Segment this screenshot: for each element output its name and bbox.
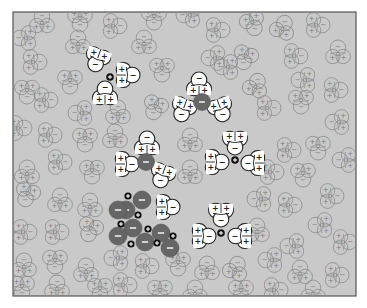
svg-text:+: +: [347, 150, 353, 158]
svg-text:+: +: [273, 27, 279, 35]
svg-text:+: +: [33, 23, 39, 31]
svg-text:+: +: [101, 52, 108, 61]
svg-text:+: +: [328, 277, 334, 285]
svg-text:−: −: [312, 221, 318, 229]
svg-text:−: −: [297, 263, 303, 271]
svg-text:−: −: [52, 263, 58, 271]
cation-sodium: [144, 225, 151, 232]
svg-text:+: +: [309, 138, 315, 146]
svg-text:−: −: [54, 278, 60, 286]
svg-text:+: +: [138, 145, 145, 154]
svg-text:−: −: [252, 25, 258, 33]
svg-text:+: +: [303, 274, 309, 282]
svg-text:+: +: [31, 187, 37, 195]
svg-text:+: +: [37, 90, 43, 98]
svg-text:+: +: [91, 280, 97, 288]
svg-text:+: +: [291, 274, 297, 282]
svg-text:+: +: [190, 86, 197, 95]
svg-text:+: +: [336, 232, 342, 240]
svg-text:−: −: [339, 271, 345, 279]
svg-text:+: +: [260, 232, 266, 240]
svg-text:−: −: [22, 196, 28, 204]
svg-text:+: +: [256, 153, 263, 162]
svg-text:+: +: [138, 256, 144, 264]
svg-text:+: +: [166, 168, 173, 177]
svg-text:+: +: [138, 268, 144, 276]
svg-text:+: +: [116, 275, 122, 283]
svg-text:+: +: [11, 118, 17, 126]
svg-text:+: +: [341, 54, 347, 62]
svg-text:+: +: [119, 260, 125, 268]
svg-text:+: +: [26, 64, 32, 72]
svg-text:+: +: [95, 162, 101, 170]
svg-text:+: +: [336, 244, 342, 252]
cation-sodium: [127, 240, 134, 247]
svg-text:+: +: [156, 164, 163, 173]
svg-text:−: −: [92, 60, 99, 69]
ionic-dissolution-diagram: −++−++−++−++−++−++−++−++−++−++−++−++−++−…: [0, 0, 367, 308]
svg-text:−: −: [97, 291, 103, 299]
svg-text:+: +: [281, 207, 287, 215]
svg-text:+: +: [243, 16, 249, 24]
svg-text:−: −: [22, 124, 28, 132]
svg-text:+: +: [210, 270, 216, 278]
svg-text:−: −: [59, 228, 65, 236]
svg-text:+: +: [280, 140, 286, 148]
svg-text:−: −: [87, 196, 93, 204]
svg-text:+: +: [193, 142, 199, 150]
svg-text:−: −: [251, 195, 257, 203]
cation-sodium: [117, 220, 124, 227]
svg-text:+: +: [295, 236, 301, 244]
svg-text:+: +: [119, 248, 125, 256]
svg-text:+: +: [116, 287, 122, 295]
svg-text:+: +: [329, 54, 335, 62]
svg-text:+: +: [280, 152, 286, 160]
svg-text:+: +: [149, 96, 155, 104]
anion-chloride: [109, 201, 127, 219]
svg-text:+: +: [41, 137, 47, 145]
svg-text:+: +: [283, 31, 289, 39]
svg-text:−: −: [112, 127, 118, 135]
svg-text:−: −: [117, 22, 123, 30]
svg-text:−: −: [347, 238, 353, 246]
svg-text:+: +: [18, 82, 24, 90]
svg-text:−: −: [19, 289, 25, 297]
svg-text:+: +: [306, 82, 312, 90]
svg-text:+: +: [323, 227, 329, 235]
svg-text:−: −: [255, 76, 261, 84]
svg-text:+: +: [60, 289, 66, 297]
svg-text:+: +: [229, 69, 235, 77]
svg-text:−: −: [170, 203, 177, 212]
svg-text:−: −: [238, 293, 244, 301]
svg-text:+: +: [191, 5, 197, 13]
svg-text:−: −: [102, 83, 109, 92]
svg-text:−: −: [204, 259, 210, 267]
svg-text:−: −: [192, 283, 198, 291]
svg-text:+: +: [243, 226, 250, 235]
svg-text:+: +: [117, 154, 124, 163]
svg-text:+: +: [323, 186, 329, 194]
cation-sodium: [169, 232, 176, 239]
svg-text:+: +: [37, 102, 43, 110]
svg-text:+: +: [118, 138, 124, 146]
svg-text:+: +: [159, 100, 165, 108]
svg-text:+: +: [18, 174, 24, 182]
cation-sodium: [134, 211, 141, 218]
svg-text:−: −: [127, 281, 133, 289]
svg-text:+: +: [158, 197, 165, 206]
svg-text:−: −: [218, 216, 225, 225]
svg-text:+: +: [61, 72, 67, 80]
svg-text:−: −: [48, 96, 54, 104]
svg-text:−: −: [219, 158, 226, 167]
anion-chloride: [138, 154, 155, 171]
svg-text:+: +: [151, 282, 157, 290]
svg-text:−: −: [129, 160, 136, 169]
anion-chloride: [133, 191, 151, 209]
svg-text:−: −: [278, 286, 284, 294]
svg-text:+: +: [294, 165, 300, 173]
svg-text:+: +: [103, 280, 109, 288]
svg-text:−: −: [244, 159, 251, 168]
anion-chloride: [161, 239, 179, 257]
svg-text:−: −: [151, 19, 157, 27]
svg-text:+: +: [135, 44, 141, 52]
